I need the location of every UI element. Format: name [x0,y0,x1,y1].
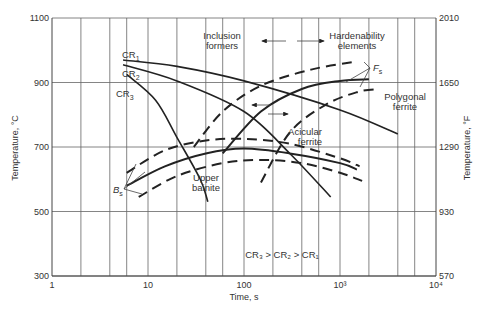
y-tick-label-left: 500 [34,207,49,217]
y-tick-label-right: 930 [439,207,454,217]
label-cr3: CR3 [116,88,134,101]
x-tick-label: 10³ [333,280,346,290]
y-tick-label-left: 1100 [30,13,49,23]
curve-cr1 [123,60,398,134]
label-cr2: CR2 [122,68,140,81]
x-tick-label: 1 [49,280,54,290]
y-tick-label-left: 700 [34,142,49,152]
x-tick-label: 10 [143,280,153,290]
y-tick-label-right: 2010 [439,13,459,23]
bs-leader-1 [124,164,136,189]
label-polygonal-ferrite-2: ferrite [393,101,417,112]
grid [52,18,436,276]
label-bs: Bs [113,184,123,197]
curves [123,60,398,202]
y-tick-label-right: 1290 [439,142,459,152]
x-tick-label: 10⁴ [429,280,443,290]
y-axis-title-left: Temperature, °C [10,115,20,181]
curve-fs-solid [223,79,369,153]
curve-bs-solid [127,149,357,186]
y-tick-label-left: 900 [34,78,49,88]
y-tick-label-right: 570 [439,271,454,281]
label-fs: Fs [373,62,383,75]
label-upper-bainite-2: bainite [192,182,220,193]
label-hardenability-2: elements [338,40,377,51]
y-axis-title-right: Temperature, °F [462,115,472,180]
x-axis-title: Time, s [229,292,259,302]
annotations: CR1 CR2 CR3 Inclusion formers Hardenabil… [10,30,472,302]
curve-bs-dashed-lower [139,160,362,197]
label-acicular-ferrite-2: ferrite [298,136,322,147]
cct-diagram: 11010010³10⁴3005007009001100570930129016… [0,0,482,309]
y-tick-label-right: 1650 [439,78,459,88]
x-tick-label: 100 [236,280,251,290]
bs-leader-2 [124,172,145,189]
label-cr-order: CR₃ > CR₂ > CR₁ [245,249,319,260]
label-inclusion-formers-2: formers [206,40,238,51]
y-tick-label-left: 300 [34,271,49,281]
